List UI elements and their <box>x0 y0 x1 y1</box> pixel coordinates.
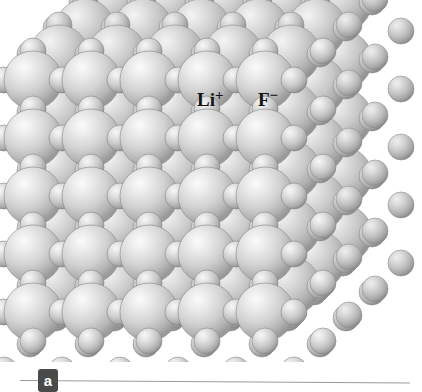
cation-label: Li+ <box>197 90 224 109</box>
cation-sphere <box>107 357 133 362</box>
cation-sphere <box>388 192 414 218</box>
cation-sphere <box>388 134 414 160</box>
figure-panel: Li+ F− a <box>0 0 422 392</box>
cation-sphere <box>388 76 414 102</box>
cation-sphere <box>310 328 336 354</box>
cation-sphere <box>310 38 336 64</box>
panel-letter-badge: a <box>38 369 58 392</box>
anion-charge: − <box>270 87 279 103</box>
cation-sphere <box>336 128 362 154</box>
lattice-spheres <box>0 0 414 362</box>
anion-symbol: F <box>258 89 270 110</box>
cation-symbol: Li <box>197 89 215 110</box>
cation-sphere <box>281 67 307 93</box>
cation-sphere <box>281 183 307 209</box>
cation-sphere <box>310 154 336 180</box>
cation-sphere <box>388 250 414 276</box>
cation-sphere <box>336 12 362 38</box>
caption-divider-rule <box>20 380 410 383</box>
anion-label: F− <box>258 90 278 109</box>
cation-sphere <box>281 125 307 151</box>
cation-charge: + <box>215 87 224 103</box>
cation-sphere <box>281 299 307 325</box>
cation-sphere <box>194 328 220 354</box>
cation-sphere <box>362 102 388 128</box>
cation-sphere <box>223 357 249 362</box>
cation-sphere <box>20 328 46 354</box>
cation-sphere <box>281 357 307 362</box>
cation-sphere <box>336 244 362 270</box>
cation-sphere <box>336 302 362 328</box>
cation-sphere <box>310 212 336 238</box>
cation-sphere <box>78 328 104 354</box>
cation-sphere <box>362 218 388 244</box>
cation-sphere <box>281 241 307 267</box>
cation-sphere <box>310 96 336 122</box>
cation-sphere <box>362 160 388 186</box>
cation-sphere <box>388 18 414 44</box>
cation-sphere <box>252 328 278 354</box>
crystal-lattice-illustration <box>0 0 422 362</box>
cation-sphere <box>49 357 75 362</box>
cation-sphere <box>165 357 191 362</box>
cation-sphere <box>0 357 17 362</box>
cation-sphere <box>362 44 388 70</box>
cation-sphere <box>362 276 388 302</box>
cation-sphere <box>336 70 362 96</box>
cation-sphere <box>310 270 336 296</box>
cation-sphere <box>136 328 162 354</box>
cation-sphere <box>336 186 362 212</box>
